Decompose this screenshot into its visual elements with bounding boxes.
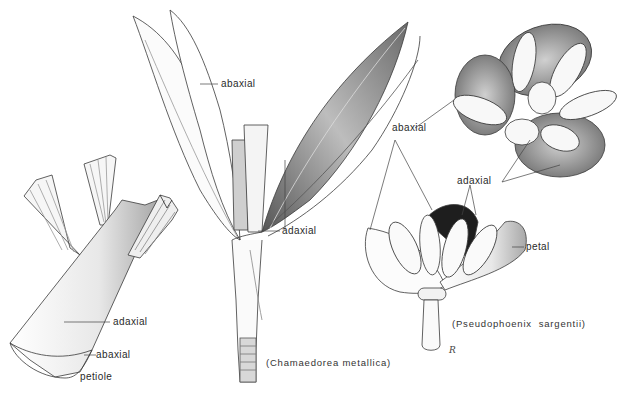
- label-flower-adaxial: adaxial: [457, 175, 492, 187]
- artist-signature: R: [449, 345, 456, 355]
- petiole-drawing: [10, 155, 178, 378]
- label-petiole-adaxial: adaxial: [113, 316, 148, 328]
- illustration-canvas: adaxial abaxial petiole abaxial adaxial …: [0, 0, 626, 393]
- botanical-line-art: [0, 0, 626, 393]
- label-leaf-abaxial: abaxial: [221, 78, 256, 90]
- label-petiole: petiole: [80, 371, 112, 383]
- label-leaf-adaxial: adaxial: [282, 225, 317, 237]
- chamaedorea-drawing: [133, 10, 420, 382]
- label-petal: petal: [526, 241, 550, 253]
- label-petiole-abaxial: abaxial: [96, 349, 131, 361]
- pseudophoenix-flower-top: [450, 12, 620, 177]
- label-flower-abaxial: abaxial: [392, 122, 427, 134]
- caption-chamaedorea: (Chamaedorea metallica): [266, 357, 391, 368]
- caption-pseudophoenix: (Pseudophoenix sargentii): [452, 318, 586, 329]
